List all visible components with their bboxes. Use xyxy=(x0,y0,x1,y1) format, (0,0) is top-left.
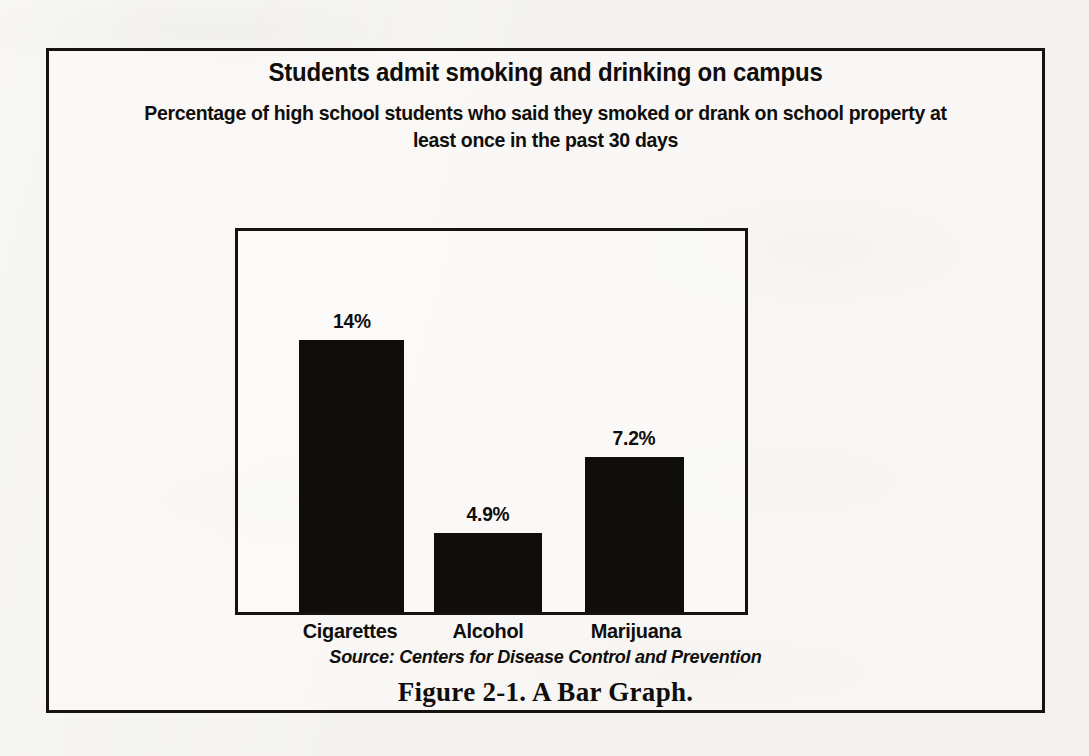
bar-alcohol xyxy=(434,533,542,612)
chart-subtitle: Percentage of high school students who s… xyxy=(144,99,947,153)
bar-marijuana xyxy=(585,457,684,612)
bar-cigarettes xyxy=(299,340,404,612)
chart-headline-block: Students admit smoking and drinking on c… xyxy=(49,57,1042,153)
bar-group-marijuana: 7.2% xyxy=(585,231,684,612)
plot-area: 14% 4.9% 7.2% xyxy=(238,231,745,612)
x-axis-category-labels: Cigarettes Alcohol Marijuana xyxy=(235,618,748,646)
category-label-marijuana: Marijuana xyxy=(591,618,682,643)
source-note-text: Source: Centers for Disease Control and … xyxy=(329,645,761,668)
bar-value-label-alcohol: 4.9% xyxy=(466,503,509,525)
figure-outer-border: Students admit smoking and drinking on c… xyxy=(46,48,1045,713)
bar-group-alcohol: 4.9% xyxy=(434,231,542,612)
category-label-cigarettes: Cigarettes xyxy=(303,618,398,643)
bar-group-cigarettes: 14% xyxy=(299,231,404,612)
figure-caption: Figure 2-1. A Bar Graph. xyxy=(49,676,1042,708)
category-label-alcohol: Alcohol xyxy=(452,618,523,643)
source-note: Source: Centers for Disease Control and … xyxy=(49,645,1042,668)
bar-value-label-marijuana: 7.2% xyxy=(613,427,656,449)
chart-title: Students admit smoking and drinking on c… xyxy=(69,57,1022,87)
plot-area-border: 14% 4.9% 7.2% xyxy=(235,228,748,615)
bar-value-label-cigarettes: 14% xyxy=(333,310,371,332)
